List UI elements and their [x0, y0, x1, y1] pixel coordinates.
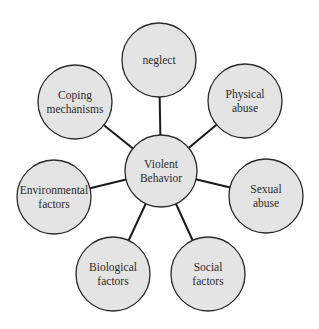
node-label: Sexual: [250, 183, 281, 195]
node-label: Physical: [226, 88, 265, 101]
node-label: abuse: [253, 197, 279, 209]
node-label: factors: [38, 198, 70, 210]
center-node-violent-behavior: ViolentBehavior: [125, 135, 197, 207]
violent-behavior-diagram: neglectPhysicalabuseSexualabuseSocialfac…: [0, 0, 319, 329]
node-label: Violent: [144, 158, 179, 170]
nodes: neglectPhysicalabuseSexualabuseSocialfac…: [17, 23, 303, 311]
node-label: abuse: [232, 102, 258, 114]
node-label: Biological: [89, 261, 137, 274]
node-neglect: neglect: [122, 23, 196, 97]
node-label: mechanisms: [47, 103, 104, 115]
node-label: Social: [194, 261, 223, 273]
node-label: Behavior: [140, 172, 182, 184]
node-label: Coping: [58, 89, 92, 102]
node-environmental-factors: Environmentalfactors: [17, 160, 91, 234]
node-biological-factors: Biologicalfactors: [76, 237, 150, 311]
node-sexual-abuse: Sexualabuse: [229, 159, 303, 233]
node-social-factors: Socialfactors: [171, 237, 245, 311]
node-label: factors: [97, 275, 129, 287]
node-label: factors: [192, 275, 224, 287]
node-label: Environmental: [20, 184, 88, 196]
node-physical-abuse: Physicalabuse: [208, 64, 282, 138]
node-coping-mechanisms: Copingmechanisms: [38, 65, 112, 139]
node-label: neglect: [142, 54, 176, 67]
